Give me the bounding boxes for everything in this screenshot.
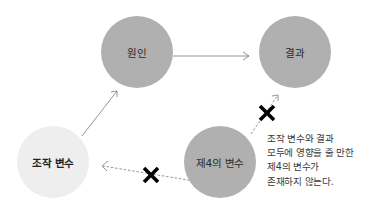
note-line: 모두에 영향을 줄 만한	[267, 146, 354, 160]
node-fourth-variable: 제4의 변수	[184, 126, 256, 198]
node-cause: 원인	[101, 16, 173, 88]
arrow-manipulated-to-cause	[82, 91, 117, 136]
arrow-cause-to-effect	[173, 52, 249, 60]
annotation-note: 조작 변수와 결과 모두에 영향을 줄 만한 제4의 변수가 존재하지 않는다.	[267, 132, 354, 189]
node-effect-label: 결과	[285, 45, 304, 60]
note-line: 제4의 변수가	[267, 160, 354, 174]
node-manipulated-variable-label: 조작 변수	[32, 155, 74, 170]
node-effect: 결과	[259, 16, 331, 88]
node-manipulated-variable: 조작 변수	[17, 126, 89, 198]
blocked-x-icon	[260, 106, 274, 120]
node-cause-label: 원인	[127, 45, 146, 60]
blocked-x-icon	[144, 168, 158, 182]
note-line: 조작 변수와 결과	[267, 132, 354, 146]
node-fourth-variable-label: 제4의 변수	[196, 155, 244, 170]
note-line: 존재하지 않는다.	[267, 175, 354, 189]
